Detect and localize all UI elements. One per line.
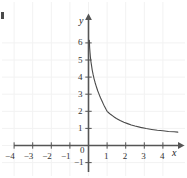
y-tick-label: 3 <box>78 90 83 99</box>
x-tick-label: 1 <box>104 152 109 161</box>
graph-figure: −4−3−2−11234 654321−1 0 x y <box>0 0 187 178</box>
x-tick-label: −3 <box>24 152 34 161</box>
y-tick-label: 6 <box>78 38 83 47</box>
x-tick-label: −2 <box>42 152 52 161</box>
y-tick-label: 1 <box>78 124 83 133</box>
y-tick-label: 2 <box>78 107 83 116</box>
x-tick-label: 2 <box>123 152 128 161</box>
y-tick-label: 5 <box>78 56 83 65</box>
x-axis-label: x <box>172 148 176 158</box>
y-tick-label: −1 <box>74 158 84 167</box>
origin-label: 0 <box>80 146 85 155</box>
x-tick-label: 3 <box>141 152 146 161</box>
y-axis-label: y <box>79 16 83 26</box>
curve-path <box>89 40 177 132</box>
gridlines <box>2 2 185 176</box>
x-tick-label: −1 <box>61 152 71 161</box>
y-tick-label: 4 <box>78 73 83 82</box>
axes <box>14 14 185 173</box>
x-tick-label: −4 <box>5 152 15 161</box>
x-tick-label: 4 <box>160 152 165 161</box>
